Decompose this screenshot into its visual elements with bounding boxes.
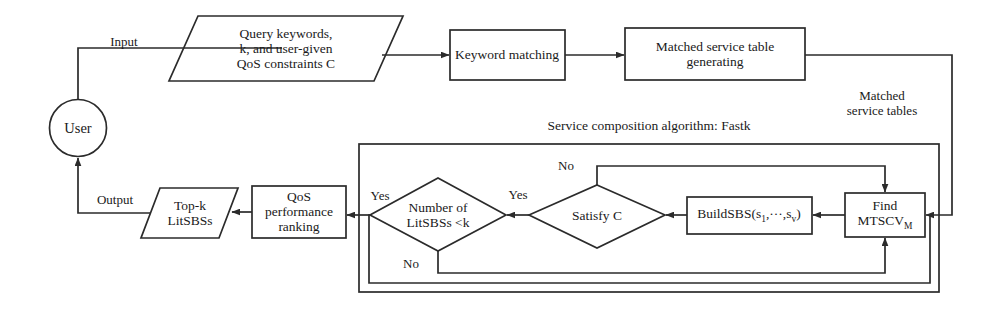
- node-topk-output-shape: [141, 188, 238, 238]
- node-user-shape: [50, 100, 107, 157]
- edge-satisfy-c-no-loop: [597, 166, 885, 192]
- flowchart-canvas: [0, 0, 994, 311]
- node-keyword-matching-shape: [450, 30, 565, 80]
- node-qos-ranking-shape: [252, 186, 346, 238]
- flowchart-diagram: User Query keywords, k, and user-given Q…: [0, 0, 994, 311]
- node-matched-table-generating-shape: [625, 28, 805, 80]
- node-build-sbs-shape: [687, 197, 812, 234]
- edge-number-litsbss-no-loop: [438, 238, 885, 273]
- edge-topk-output-to-user: [78, 158, 150, 213]
- node-number-litsbss-shape: [370, 178, 506, 251]
- node-satisfy-c-shape: [529, 185, 665, 248]
- node-find-mtscv-shape: [845, 193, 925, 237]
- edge-table-generating-to-find-mtscv: [805, 55, 952, 215]
